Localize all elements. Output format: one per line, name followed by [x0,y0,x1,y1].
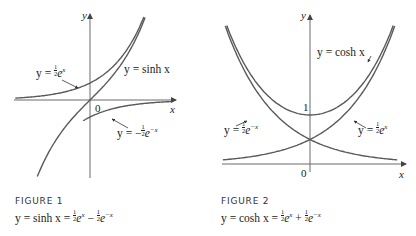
fig1-sinh-label: y = sinh x [124,63,170,75]
fig2-neg-half-exp-label: y = 12e−x [224,121,258,136]
figure-1-plot [14,14,176,178]
fig1-neg-half-exp-label: y = −12e−x [117,124,158,139]
figure-2-caption-title: FIGURE 2 [221,196,269,206]
fig1-caption-minus: − [87,212,94,224]
series-line-0-5-exp-x- [223,26,395,160]
fig1-half-exp-label: y = 12ex [36,64,65,79]
fig2-cosh-label: y = cosh x [317,46,365,58]
fig2-origin-label: 0 [301,167,307,179]
series-line-0-5-exp-x- [225,26,397,160]
fig1-y-axis-label: y [82,9,87,21]
label-pointer-arrow [368,56,371,62]
figure-1-caption-title: FIGURE 1 [15,196,63,206]
fig1-x-axis-label: x [170,103,175,115]
fig1-half-exp-prefix: y = [36,67,54,79]
fig1-neg-half-exp-prefix: y = − [117,127,141,139]
fig1-sinh-label-text: y = sinh x [124,63,170,75]
fig2-neg-half-exp-prefix: y = [224,124,242,136]
label-pointer-arrow [62,80,78,88]
fig2-y-axis-label: y [301,9,306,21]
series-line-0-5-exp-x- [15,17,144,98]
fig2-half-exp-prefix: y = [358,124,376,136]
fig2-cosh-label-text: y = cosh x [317,46,365,58]
series-line-sinh-x- [37,18,145,177]
fig1-caption-func: y = sinh x [15,212,61,224]
fig2-caption-func: y = cosh x [221,212,269,224]
fig2-one-label: 1 [303,101,309,113]
figure-1-caption-equation: y = sinh x = 12ex − 12e−x [15,209,113,224]
figure-2-plot [222,15,406,172]
figure-2-caption-equation: y = cosh x = 12ex + 12e−x [221,209,321,224]
fig2-half-exp-label: y = 12ex [358,121,387,136]
fig2-x-axis-label: x [399,168,404,180]
fig1-origin-label: 0 [95,102,101,114]
